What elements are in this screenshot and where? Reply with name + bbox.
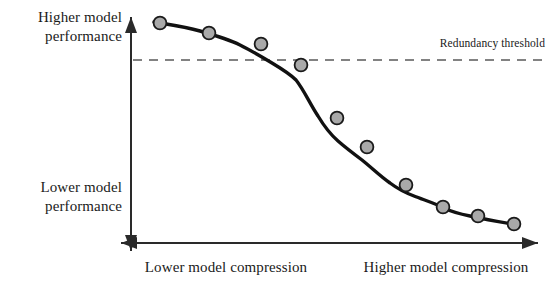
data-point-marker	[295, 59, 308, 72]
data-point-marker	[437, 201, 450, 214]
y-axis-label-high: Higher model performance	[10, 8, 122, 46]
data-point-marker	[331, 112, 344, 125]
chart-figure: Higher model performance Lower model per…	[0, 0, 557, 287]
data-point-marker	[361, 141, 374, 154]
y-axis-label-low: Lower model performance	[10, 178, 122, 216]
data-point-marker	[400, 179, 413, 192]
redundancy-threshold-label: Redundancy threshold	[330, 36, 545, 50]
data-point-marker	[508, 218, 521, 231]
x-axis-label-high: Higher model compression	[340, 258, 552, 277]
data-point-marker	[154, 17, 167, 30]
x-axis-label-low: Lower model compression	[112, 258, 340, 277]
data-point-marker	[472, 210, 485, 223]
data-point-marker	[255, 38, 268, 51]
data-point-marker	[203, 27, 216, 40]
